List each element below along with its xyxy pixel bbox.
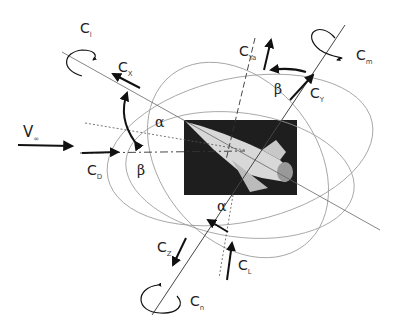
c-l-arrow — [227, 243, 232, 280]
v-inf-arrow — [18, 145, 72, 146]
label-alpha-top: α — [155, 114, 165, 130]
label-c-d: CD — [87, 162, 102, 181]
diagram-canvas: Cl CX CYa Cm CY V∞ CD CZ CL Cn α α β β — [0, 0, 394, 329]
c-d-arrow — [82, 152, 118, 153]
label-c-m: Cm — [356, 47, 373, 66]
label-c-y: CY — [310, 85, 325, 104]
c-ya-arrow — [264, 40, 271, 70]
label-beta-top: β — [274, 81, 282, 97]
label-v-inf: V∞ — [23, 123, 39, 143]
label-alpha-bottom: α — [217, 198, 227, 214]
spaceplane-image — [184, 120, 297, 195]
label-c-z: CZ — [157, 239, 172, 258]
label-c-lift: CL — [238, 257, 252, 276]
c-x-arrow — [113, 74, 140, 88]
alpha-top-arrow — [124, 93, 135, 142]
label-beta-left: β — [137, 162, 145, 178]
c-m-arc — [312, 30, 342, 60]
label-c-ya: CYa — [239, 43, 256, 62]
aero-diagram: Cl CX CYa Cm CY V∞ CD CZ CL Cn α α β β — [0, 0, 394, 329]
c-z-arrow — [173, 238, 186, 265]
c-n-arc — [141, 285, 180, 313]
label-c-l-roll: Cl — [80, 20, 92, 39]
beta-top-arrow — [271, 69, 306, 72]
label-c-x: CX — [118, 59, 133, 78]
label-c-n: Cn — [190, 293, 204, 312]
